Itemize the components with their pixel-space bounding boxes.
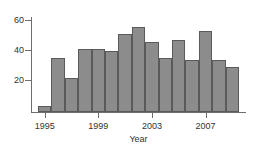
bar-2004 <box>159 58 172 112</box>
bar-2009 <box>226 67 239 112</box>
bar-1999 <box>92 49 105 112</box>
bar-1997 <box>65 78 78 113</box>
x-axis-tick-label-1995: 1995 <box>28 121 62 131</box>
bar-2008 <box>212 60 225 113</box>
bar-2000 <box>105 51 118 113</box>
bar-2001 <box>118 34 131 112</box>
x-axis-tick-1995 <box>45 112 46 118</box>
plot-area: 60 40 20 1995 1999 2003 <box>0 0 253 157</box>
x-axis-title: Year <box>31 134 246 144</box>
x-axis-tick-2003 <box>152 112 153 118</box>
x-axis-tick-1999 <box>98 112 99 118</box>
bar-chart-figure: 60 40 20 1995 1999 2003 <box>0 0 253 157</box>
bar-2007 <box>199 31 212 112</box>
bar-2005 <box>172 40 185 112</box>
bar-1998 <box>78 49 91 112</box>
bar-1996 <box>51 58 64 112</box>
x-axis-tick-label-2007: 2007 <box>189 121 223 131</box>
x-axis-tick-label-2003: 2003 <box>135 121 169 131</box>
x-axis-tick-2007 <box>206 112 207 118</box>
x-axis-tick-label-1999: 1999 <box>81 121 115 131</box>
bar-2006 <box>185 60 198 112</box>
bar-2003 <box>145 42 158 112</box>
bar-2002 <box>132 27 145 112</box>
